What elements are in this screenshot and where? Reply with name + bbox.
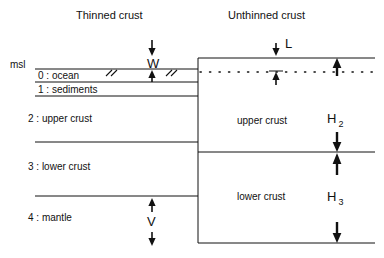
title-unthinned-crust: Unthinned crust bbox=[228, 9, 305, 21]
right-layer-label-lower-crust: lower crust bbox=[237, 191, 286, 202]
left-layer-label-0: 0 : ocean bbox=[38, 70, 79, 81]
left-layer-label-3: 3 : lower crust bbox=[28, 161, 90, 172]
dimension-arrow-l bbox=[269, 43, 283, 85]
left-layer-label-2: 2 : upper crust bbox=[28, 113, 92, 124]
sea-surface-hatch-right bbox=[166, 70, 177, 76]
left-layer-label-4: 4 : mantle bbox=[28, 212, 72, 223]
left-layer-label-1: 1 : sediments bbox=[38, 84, 97, 95]
dimension-label-v: V bbox=[147, 214, 156, 229]
crust-cross-section-diagram: Thinned crust Unthinned crust msl 0 : oc… bbox=[0, 0, 384, 258]
title-thinned-crust: Thinned crust bbox=[76, 9, 143, 21]
right-layer-label-upper-crust: upper crust bbox=[237, 115, 287, 126]
msl-label: msl bbox=[10, 59, 26, 70]
dimension-label-l: L bbox=[285, 36, 292, 51]
dimension-label-h3: H3 bbox=[327, 189, 343, 207]
sea-surface-hatch-left bbox=[106, 70, 117, 76]
dimension-label-w: W bbox=[147, 56, 160, 71]
dimension-label-h2: H2 bbox=[327, 111, 343, 129]
